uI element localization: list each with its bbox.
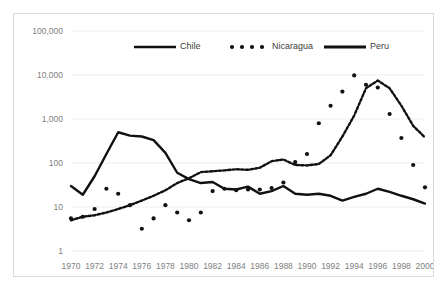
data-point-nicaragua [175, 210, 179, 214]
legend-marker-nicaragua [230, 45, 234, 49]
data-point-nicaragua [376, 85, 380, 89]
y-axis-tick-label: 1,000 [42, 114, 64, 124]
x-axis-tick-label: 1978 [156, 261, 175, 271]
data-point-nicaragua [140, 227, 144, 231]
x-axis-tick-label: 1976 [132, 261, 151, 271]
data-point-nicaragua [388, 112, 392, 116]
x-axis-tick-label: 2000 [416, 261, 433, 271]
x-axis-tick-label: 1994 [345, 261, 364, 271]
x-axis-tick-label: 1980 [180, 261, 199, 271]
legend-label-chile: Chile [180, 41, 201, 51]
data-point-nicaragua [317, 121, 321, 125]
x-axis-tick-labels: 1970197219741976197819801982198419861988… [62, 261, 433, 271]
x-axis-tick-label: 1992 [321, 261, 340, 271]
chart-plot-area: 100,00010,0001,000100101 197019721974197… [14, 14, 433, 276]
data-point-nicaragua [104, 187, 108, 191]
x-axis-tick-label: 1972 [85, 261, 104, 271]
data-point-nicaragua [399, 136, 403, 140]
x-axis-tick-label: 1974 [109, 261, 128, 271]
legend-label-nicaragua: Nicaragua [272, 41, 313, 51]
x-axis-tick-label: 1996 [368, 261, 387, 271]
y-axis-tick-label: 10,000 [37, 70, 63, 80]
data-point-nicaragua [93, 207, 97, 211]
gridlines [71, 31, 425, 251]
data-point-nicaragua [116, 192, 120, 196]
data-point-nicaragua [423, 185, 427, 189]
y-axis-tick-labels: 100,00010,0001,000100101 [32, 26, 63, 256]
data-point-nicaragua [187, 218, 191, 222]
data-point-nicaragua [81, 215, 85, 219]
y-axis-tick-label: 10 [54, 202, 64, 212]
data-point-nicaragua [340, 89, 344, 93]
series-line-peru [71, 132, 425, 203]
series-line-chile [71, 81, 425, 221]
data-point-nicaragua [128, 203, 132, 207]
y-axis-tick-label: 100 [49, 158, 63, 168]
x-axis-tick-label: 1988 [274, 261, 293, 271]
legend-label-peru: Peru [370, 41, 389, 51]
x-axis-tick-label: 1984 [227, 261, 246, 271]
x-axis-tick-label: 1998 [392, 261, 411, 271]
data-point-nicaragua [411, 163, 415, 167]
y-axis-tick-label: 100,000 [32, 26, 63, 36]
data-point-nicaragua [211, 189, 215, 193]
x-axis-tick-label: 1982 [203, 261, 222, 271]
data-point-nicaragua [69, 216, 73, 220]
data-point-nicaragua [305, 152, 309, 156]
data-point-nicaragua [281, 180, 285, 184]
legend-marker-nicaragua [240, 45, 244, 49]
data-point-nicaragua [258, 187, 262, 191]
data-point-nicaragua [152, 216, 156, 220]
chart-frame: 100,00010,0001,000100101 197019721974197… [13, 13, 434, 277]
data-point-nicaragua [364, 83, 368, 87]
data-point-nicaragua [199, 210, 203, 214]
chart-legend: ChileNicaraguaPeru [134, 41, 389, 51]
data-point-nicaragua [329, 104, 333, 108]
y-axis-tick-label: 1 [58, 246, 63, 256]
data-point-nicaragua [163, 203, 167, 207]
x-axis-tick-label: 1990 [298, 261, 317, 271]
x-axis-tick-label: 1970 [62, 261, 81, 271]
legend-marker-nicaragua [260, 45, 264, 49]
data-point-nicaragua [293, 160, 297, 164]
x-axis-tick-label: 1986 [250, 261, 269, 271]
legend-marker-nicaragua [250, 45, 254, 49]
data-point-nicaragua [352, 73, 356, 77]
